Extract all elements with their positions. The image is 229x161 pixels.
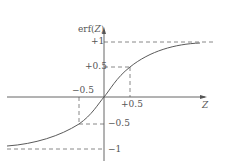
tick-label-x-minus05: −0.5 (72, 86, 94, 95)
erf-chart (0, 0, 229, 161)
reference-lines (7, 42, 215, 149)
tick-label-x-plus05: +0.5 (121, 100, 143, 109)
tick-label-y-plus1: +1 (91, 37, 104, 46)
y-axis-label-suffix: ) (101, 24, 105, 34)
tick-label-y-minus05: −0.5 (108, 119, 130, 128)
y-axis-label: erf(Z) (78, 25, 104, 34)
y-axis-label-prefix: erf( (78, 24, 94, 34)
tick-label-y-plus05: +0.5 (85, 62, 107, 71)
x-axis-arrow-icon (200, 95, 207, 99)
erf-curve (7, 43, 200, 146)
tick-label-y-minus1: −1 (108, 145, 121, 154)
x-axis-label: Z (202, 101, 208, 110)
